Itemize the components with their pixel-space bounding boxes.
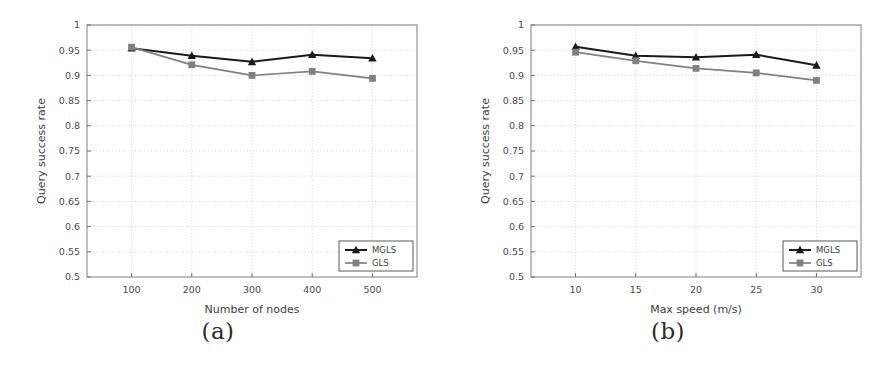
data-point-marker-square xyxy=(188,61,195,68)
data-point-marker-square xyxy=(797,260,804,267)
data-point-marker-square xyxy=(632,57,639,64)
y-tick-label: 0.8 xyxy=(509,120,524,131)
y-tick-label: 0.75 xyxy=(59,145,80,156)
y-tick-label: 0.85 xyxy=(59,95,80,106)
x-tick-label: 15 xyxy=(630,284,642,295)
data-point-marker-square xyxy=(128,44,135,51)
y-tick-label: 0.5 xyxy=(509,271,524,282)
y-tick-label: 0.7 xyxy=(65,171,80,182)
x-tick-label: 400 xyxy=(303,284,321,295)
y-tick-label: 0.55 xyxy=(503,246,524,257)
y-axis-title: Query success rate xyxy=(479,98,492,204)
y-tick-label: 0.6 xyxy=(65,221,80,232)
figure-container: 0.50.550.60.650.70.750.80.850.90.9511002… xyxy=(0,0,889,371)
x-tick-label: 200 xyxy=(183,284,201,295)
y-tick-label: 1 xyxy=(518,19,524,30)
data-point-marker-square xyxy=(353,260,360,267)
data-point-marker-square xyxy=(249,72,256,79)
chart-panel-a: 0.50.550.60.650.70.750.80.850.90.9511002… xyxy=(0,0,444,371)
y-tick-label: 0.9 xyxy=(509,70,524,81)
data-point-marker-square xyxy=(753,69,760,76)
x-tick-label: 25 xyxy=(750,284,762,295)
x-tick-label: 100 xyxy=(122,284,140,295)
x-axis-title: Number of nodes xyxy=(205,303,300,316)
y-tick-label: 0.5 xyxy=(65,271,80,282)
x-axis-title: Max speed (m/s) xyxy=(650,303,742,316)
legend-label-gls: GLS xyxy=(816,258,833,268)
y-tick-label: 0.65 xyxy=(59,196,80,207)
y-tick-label: 0.7 xyxy=(509,171,524,182)
y-tick-label: 0.75 xyxy=(503,145,524,156)
y-tick-label: 0.8 xyxy=(65,120,80,131)
chart-b-plot: 0.50.550.60.650.70.750.80.850.90.9511015… xyxy=(444,0,888,371)
chart-a-plot: 0.50.550.60.650.70.750.80.850.90.9511002… xyxy=(0,0,444,371)
data-point-marker-square xyxy=(309,68,316,75)
y-tick-label: 0.9 xyxy=(65,70,80,81)
x-tick-label: 30 xyxy=(810,284,822,295)
y-tick-label: 0.6 xyxy=(509,221,524,232)
chart-panel-b: 0.50.550.60.650.70.750.80.850.90.9511015… xyxy=(444,0,888,371)
data-point-marker-square xyxy=(813,77,820,84)
y-tick-label: 1 xyxy=(74,19,80,30)
y-tick-label: 0.55 xyxy=(59,246,80,257)
data-point-marker-square xyxy=(693,65,700,72)
y-tick-label: 0.85 xyxy=(503,95,524,106)
y-axis-title: Query success rate xyxy=(35,98,48,204)
y-tick-label: 0.65 xyxy=(503,196,524,207)
panel-b-caption: (b) xyxy=(446,318,889,344)
x-tick-label: 500 xyxy=(363,284,381,295)
y-tick-label: 0.95 xyxy=(503,45,524,56)
panel-a-caption: (a) xyxy=(0,318,440,344)
legend-label-mgls: MGLS xyxy=(372,245,396,255)
x-tick-label: 300 xyxy=(243,284,261,295)
data-point-marker-square xyxy=(369,75,376,82)
x-tick-label: 20 xyxy=(690,284,702,295)
data-point-marker-square xyxy=(572,49,579,56)
y-tick-label: 0.95 xyxy=(59,45,80,56)
legend-label-mgls: MGLS xyxy=(816,245,840,255)
x-tick-label: 10 xyxy=(570,284,582,295)
legend-label-gls: GLS xyxy=(372,258,389,268)
